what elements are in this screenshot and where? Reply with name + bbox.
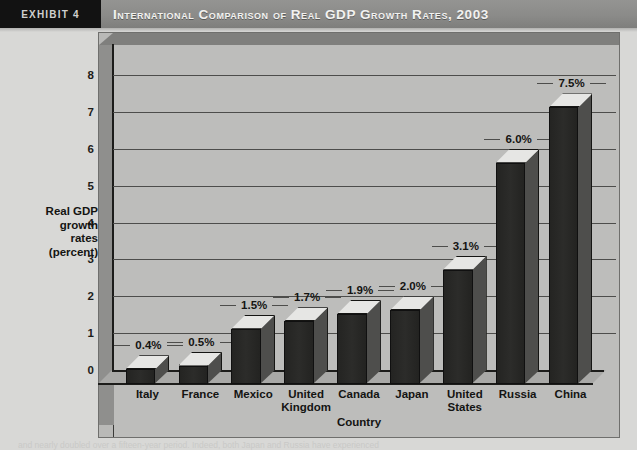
gridline xyxy=(113,223,616,224)
x-axis-category-label: Italy xyxy=(136,388,159,401)
y-axis-title-line: (percent) xyxy=(14,246,98,260)
value-label-leader-line xyxy=(326,290,342,291)
chart-bar-value-label: 1.9% xyxy=(347,284,373,296)
y-axis-tick-label: 6 xyxy=(64,143,94,155)
chart-bar-front-face xyxy=(496,163,526,384)
chart-bar-side-face xyxy=(577,93,592,384)
page-body-text-sliver: and nearly doubled over a fifteen-year p… xyxy=(18,440,618,450)
x-axis-category-label: United States xyxy=(447,388,483,413)
value-label-leader-line xyxy=(379,286,395,287)
value-label-leader-line xyxy=(167,345,183,346)
chart-bar xyxy=(337,300,367,384)
chart-bar xyxy=(126,355,156,384)
value-label-leader-line xyxy=(220,305,236,306)
y-axis-tick-label: 7 xyxy=(64,106,94,118)
chart-bar-front-face xyxy=(179,366,209,384)
x-axis-category-label: Russia xyxy=(499,388,537,401)
chart-bar-value-label: 1.5% xyxy=(241,299,267,311)
value-label-leader-line xyxy=(432,246,448,247)
value-label-leader-line xyxy=(484,139,500,140)
chart-bar-side-face xyxy=(419,296,434,384)
y-axis-title-line: Real GDP xyxy=(14,205,98,219)
exhibit-number-badge: EXHIBIT 4 xyxy=(0,0,101,28)
chart-bar-value-label: 2.0% xyxy=(400,280,426,292)
chart-bar xyxy=(496,149,526,384)
chart-bar-front-face xyxy=(443,270,473,384)
x-axis-category-label: Japan xyxy=(395,388,428,401)
chart-bar xyxy=(179,352,209,384)
y-axis-tick-label: 1 xyxy=(64,327,94,339)
x-axis-category-label: United Kingdom xyxy=(281,388,331,413)
x-axis-category-label: Mexico xyxy=(234,388,273,401)
chart-bar-value-label: 3.1% xyxy=(453,240,479,252)
y-axis-tick-label: 0 xyxy=(64,364,94,376)
exhibit-header-bar: EXHIBIT 4 International Comparison of Re… xyxy=(0,0,637,28)
gridline xyxy=(113,186,616,187)
y-axis-tick-label: 8 xyxy=(64,69,94,81)
x-axis-category-label: China xyxy=(555,388,587,401)
value-label-leader-line xyxy=(378,290,394,291)
chart-bar xyxy=(549,93,579,384)
value-label-leader-line xyxy=(273,297,289,298)
gridline xyxy=(113,112,616,113)
chart-bar-value-label: 7.5% xyxy=(558,77,584,89)
chart-bar-front-face xyxy=(284,321,314,384)
chart-bar xyxy=(443,256,473,384)
chart-bar-front-face xyxy=(549,107,579,384)
value-label-leader-line xyxy=(272,305,288,306)
gridline xyxy=(113,296,616,297)
x-axis-category-label: Canada xyxy=(338,388,380,401)
chart-bar xyxy=(231,315,261,384)
value-label-leader-line xyxy=(167,342,183,343)
value-label-leader-line xyxy=(537,83,553,84)
gridline xyxy=(113,75,616,76)
gridline xyxy=(113,259,616,260)
chart-bar-front-face xyxy=(126,369,156,384)
chart-bar xyxy=(390,296,420,384)
value-label-leader-line xyxy=(325,297,341,298)
chart-plot-area: Country 8765432100.4%Italy0.5%France1.5%… xyxy=(98,32,620,438)
y-axis-title-line: growth xyxy=(14,219,98,233)
y-axis-tick-label: 5 xyxy=(64,180,94,192)
chart-bar-value-label: 6.0% xyxy=(506,133,532,145)
exhibit-number-label: EXHIBIT 4 xyxy=(21,8,80,20)
chart-bar-side-face xyxy=(524,149,539,384)
chart-bar-side-face xyxy=(472,256,487,384)
chart-bar-front-face xyxy=(390,310,420,384)
chart-bar-value-label: 0.5% xyxy=(188,336,214,348)
chart-bar-front-face xyxy=(231,329,261,384)
gridline xyxy=(113,149,616,150)
x-axis-category-label: France xyxy=(181,388,219,401)
exhibit-title: International Comparison of Real GDP Gro… xyxy=(113,0,489,28)
chart-bar-value-label: 0.4% xyxy=(135,339,161,351)
value-label-leader-line xyxy=(590,83,606,84)
value-label-leader-line xyxy=(114,345,130,346)
y-axis-title: Real GDPgrowthrates(percent) xyxy=(14,205,98,259)
y-axis-title-line: rates xyxy=(14,232,98,246)
chart-bar-front-face xyxy=(337,314,367,384)
y-axis-line xyxy=(112,44,114,370)
chart-bar-value-label: 1.7% xyxy=(294,291,320,303)
chart-bar xyxy=(284,307,314,384)
y-axis-tick-label: 2 xyxy=(64,290,94,302)
x-axis-title: Country xyxy=(98,416,620,428)
